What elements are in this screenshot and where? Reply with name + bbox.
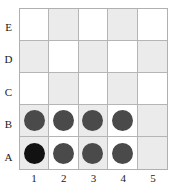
cell-e4[interactable] xyxy=(108,9,137,41)
game-piece-b2[interactable] xyxy=(53,110,74,131)
cell-b2[interactable] xyxy=(49,105,78,137)
cell-a3[interactable] xyxy=(79,137,108,169)
cell-d3[interactable] xyxy=(79,41,108,73)
cell-a5[interactable] xyxy=(138,137,167,169)
col-label-5: 5 xyxy=(138,173,168,184)
col-label-1: 1 xyxy=(19,173,49,184)
game-piece-b4[interactable] xyxy=(112,110,133,131)
cell-e2[interactable] xyxy=(49,9,78,41)
game-piece-b1[interactable] xyxy=(24,110,45,131)
game-piece-a1-highlighted[interactable] xyxy=(24,143,45,164)
cell-e1[interactable] xyxy=(20,9,49,41)
cell-b4[interactable] xyxy=(108,105,137,137)
cell-c4[interactable] xyxy=(108,73,137,105)
col-label-3: 3 xyxy=(79,173,109,184)
row-label-d: D xyxy=(0,54,17,65)
row-label-a: A xyxy=(0,152,17,163)
cell-a4[interactable] xyxy=(108,137,137,169)
row-label-e: E xyxy=(0,22,17,33)
cell-b3[interactable] xyxy=(79,105,108,137)
cell-c1[interactable] xyxy=(20,73,49,105)
game-board-grid[interactable] xyxy=(19,8,168,170)
cell-e3[interactable] xyxy=(79,9,108,41)
cell-d2[interactable] xyxy=(49,41,78,73)
cell-b5[interactable] xyxy=(138,105,167,137)
game-piece-a3[interactable] xyxy=(82,143,103,164)
board-figure: E D C B A xyxy=(0,0,181,188)
row-label-c: C xyxy=(0,87,17,98)
col-label-4: 4 xyxy=(108,173,138,184)
col-label-2: 2 xyxy=(49,173,79,184)
cell-a2[interactable] xyxy=(49,137,78,169)
cell-e5[interactable] xyxy=(138,9,167,41)
cell-c5[interactable] xyxy=(138,73,167,105)
row-label-b: B xyxy=(0,119,17,130)
game-piece-a4[interactable] xyxy=(112,143,133,164)
cell-d5[interactable] xyxy=(138,41,167,73)
game-piece-b3[interactable] xyxy=(82,110,103,131)
cell-b1[interactable] xyxy=(20,105,49,137)
cell-d1[interactable] xyxy=(20,41,49,73)
cell-c2[interactable] xyxy=(49,73,78,105)
cell-d4[interactable] xyxy=(108,41,137,73)
cell-c3[interactable] xyxy=(79,73,108,105)
cell-a1[interactable] xyxy=(20,137,49,169)
game-piece-a2[interactable] xyxy=(53,143,74,164)
